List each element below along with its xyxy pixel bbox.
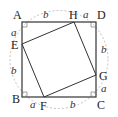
outer-square-abcd	[22, 22, 96, 97]
length-label-eb: b	[11, 64, 17, 76]
point-label-c: C	[97, 98, 105, 112]
length-label-bf: a	[30, 98, 36, 110]
point-label-g: G	[99, 69, 108, 83]
point-label-f: F	[40, 99, 47, 113]
pythagorean-square-diagram: A H D E G B F C b a a b a b b a	[0, 0, 118, 117]
point-label-b: B	[12, 92, 20, 106]
point-label-e: E	[11, 38, 18, 52]
point-label-d: D	[97, 8, 106, 22]
length-label-hd: a	[83, 8, 89, 20]
length-label-ae: a	[11, 26, 17, 38]
diagram-canvas: A H D E G B F C b a a b a b b a	[0, 0, 118, 117]
inner-square-efgh	[22, 22, 96, 97]
length-label-fc: b	[70, 98, 76, 110]
point-label-a: A	[13, 8, 22, 22]
length-label-dg: b	[101, 43, 107, 55]
dashed-circumscribed-circle	[10, 11, 108, 109]
point-label-h: H	[69, 8, 78, 22]
length-label-ah: b	[43, 8, 49, 20]
length-label-gc: a	[101, 82, 107, 94]
